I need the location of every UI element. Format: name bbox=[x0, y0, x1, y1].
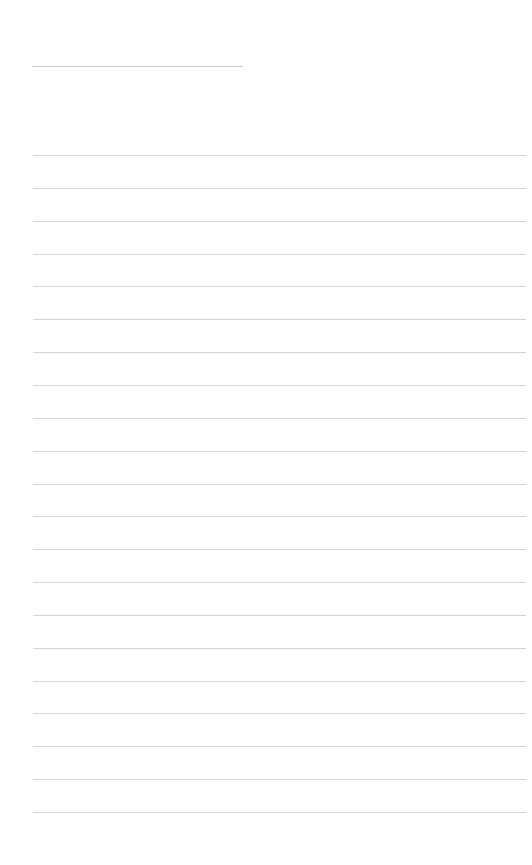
ruled-line bbox=[33, 319, 526, 320]
lined-paper-page bbox=[0, 0, 532, 865]
ruled-line bbox=[33, 418, 526, 419]
ruled-line bbox=[33, 713, 526, 714]
ruled-line bbox=[33, 648, 526, 649]
ruled-line bbox=[33, 516, 526, 517]
ruled-line bbox=[33, 352, 526, 353]
ruled-line bbox=[33, 746, 526, 747]
ruled-line bbox=[33, 681, 526, 682]
ruled-line bbox=[33, 188, 526, 189]
ruled-line bbox=[33, 254, 526, 255]
ruled-line bbox=[33, 779, 526, 780]
ruled-line bbox=[33, 582, 526, 583]
ruled-line bbox=[33, 286, 526, 287]
ruled-line bbox=[33, 385, 526, 386]
ruled-line bbox=[33, 812, 526, 813]
ruled-line bbox=[33, 549, 526, 550]
ruled-line bbox=[33, 221, 526, 222]
ruled-lines bbox=[0, 0, 532, 865]
ruled-line bbox=[33, 451, 526, 452]
ruled-line bbox=[33, 155, 526, 156]
ruled-line bbox=[33, 484, 526, 485]
ruled-line bbox=[33, 615, 526, 616]
